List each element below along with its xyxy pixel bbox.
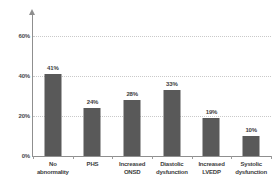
bar [243, 136, 260, 156]
x-category-line1: Diastolic [152, 160, 192, 168]
bar [163, 90, 180, 156]
bar-value-label: 24% [87, 99, 98, 105]
x-axis-labels: No abnormality PHS Increased ONSD Diasto… [33, 160, 271, 192]
x-category-label: Systolic dysfunction [231, 160, 271, 176]
x-category-line1: Systolic [231, 160, 271, 168]
x-category-line1: Increased [112, 160, 152, 168]
x-category-line1: No [33, 160, 73, 168]
x-category-line1: PHS [73, 160, 113, 168]
bar-chart: 60% 40% 20% 0% 41% 24% 28% 33% 19% 10% [0, 0, 275, 193]
x-axis-tick [152, 156, 153, 159]
bar-slot: 33% [152, 16, 192, 156]
x-axis-tick [231, 156, 232, 159]
y-tick-label-0: 0% [22, 153, 30, 160]
bar-value-label: 19% [206, 109, 217, 115]
bars-layer: 41% 24% 28% 33% 19% 10% [33, 16, 271, 156]
bar-value-label: 28% [126, 91, 137, 97]
x-category-label: Increased LVEDP [192, 160, 232, 176]
x-axis-tick [271, 156, 272, 159]
x-category-label: Increased ONSD [112, 160, 152, 176]
x-category-label: Diastolic dysfunction [152, 160, 192, 176]
bar-value-label: 10% [245, 127, 256, 133]
y-tick-label-20: 20% [19, 113, 30, 120]
bar-slot: 24% [73, 16, 113, 156]
bar-value-label: 41% [47, 65, 58, 71]
bar-value-label: 33% [166, 81, 177, 87]
x-axis-tick [192, 156, 193, 159]
bar [124, 100, 141, 156]
x-category-line2: dysfunction [152, 168, 192, 176]
x-category-line2: dysfunction [231, 168, 271, 176]
y-tick-label-40: 40% [19, 73, 30, 80]
bar-slot: 10% [231, 16, 271, 156]
bar-slot: 41% [33, 16, 73, 156]
bar [84, 108, 101, 156]
x-category-line2: LVEDP [192, 168, 232, 176]
x-category-line1: Increased [192, 160, 232, 168]
bar [44, 74, 61, 156]
x-category-line2: abnormality [33, 168, 73, 176]
x-category-line2: ONSD [112, 168, 152, 176]
x-axis-tick [33, 156, 34, 159]
x-category-label: PHS [73, 160, 113, 168]
y-tick-label-60: 60% [19, 33, 30, 40]
x-axis-tick [112, 156, 113, 159]
x-axis-tick [73, 156, 74, 159]
bar [203, 118, 220, 156]
x-category-label: No abnormality [33, 160, 73, 176]
bar-slot: 19% [192, 16, 232, 156]
y-axis-labels: 60% 40% 20% 0% [0, 0, 30, 193]
bar-slot: 28% [112, 16, 152, 156]
